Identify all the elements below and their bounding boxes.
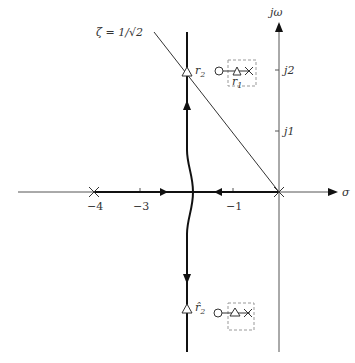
- r2-label: r2: [195, 64, 205, 79]
- r2-triangle-icon: [182, 67, 192, 76]
- r1-label: r1: [232, 75, 242, 90]
- r2hat-label: r̂2: [195, 301, 205, 316]
- damping-line-label: ζ = 1/√2: [96, 26, 143, 39]
- root-locus-diagram: σ jω −4 −3 −1 j1 j2 ζ = 1/√2 r2 r̂2: [0, 0, 355, 363]
- zero-circle-icon: [215, 67, 223, 75]
- tick-j1: j1: [281, 125, 294, 138]
- bottom-dipole-inset: [214, 303, 254, 330]
- zero-circle-icon: [214, 309, 222, 317]
- r2hat-triangle-icon: [182, 304, 192, 313]
- tick-minus-1: −1: [226, 200, 242, 213]
- real-axis-arrow-icon: [328, 188, 338, 196]
- imag-ticks: [275, 70, 279, 131]
- tick-minus-3: −3: [133, 200, 149, 213]
- imag-axis: [275, 22, 283, 352]
- real-locus-arrow-left-icon: [214, 188, 222, 196]
- jw-label: jω: [267, 6, 282, 19]
- locus-arrow-up-icon: [183, 100, 191, 110]
- locus-arrow-down-icon: [183, 274, 191, 284]
- imag-axis-arrow-icon: [275, 22, 283, 32]
- damping-line: [154, 32, 279, 192]
- r1hat-triangle-icon: [230, 308, 240, 316]
- tick-minus-4: −4: [87, 200, 103, 213]
- tick-j2: j2: [281, 64, 294, 77]
- real-locus-arrow-right-icon: [160, 188, 168, 196]
- sigma-label: σ: [342, 186, 350, 199]
